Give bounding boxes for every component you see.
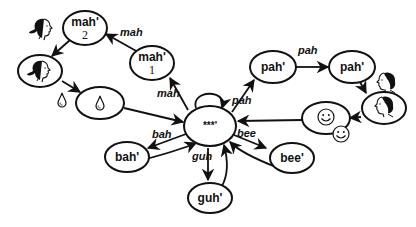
man-face-icon <box>377 72 395 93</box>
edge-label-pah-top: pah <box>297 44 318 56</box>
node-mah1[interactable]: mah' 1 <box>130 46 174 80</box>
node-center[interactable]: ***' <box>184 106 236 146</box>
edge-pah2-to-man <box>360 82 366 93</box>
node-bee[interactable]: bee' <box>270 143 314 173</box>
edge-bee-to-center <box>230 142 276 167</box>
edge-label-bee: bee <box>237 127 256 139</box>
edge-mah2-to-woman <box>52 40 70 56</box>
node-pah1[interactable]: pah' <box>250 51 296 83</box>
node-pah1-label: pah' <box>261 60 285 74</box>
edge-drop-to-center <box>124 108 183 122</box>
node-bah[interactable]: bah' <box>105 142 149 172</box>
edge-label-bah: bah <box>152 128 172 140</box>
node-bah-label: bah' <box>115 150 139 164</box>
edge-label-guh: guh <box>191 150 212 162</box>
edge-label-pah-center: pah <box>231 94 252 106</box>
edge-man-to-smile <box>350 117 361 118</box>
node-mah1-sub: 1 <box>149 63 155 77</box>
node-woman[interactable] <box>18 55 62 87</box>
smiley-face-icon <box>333 126 349 142</box>
node-mah2-label: mah' <box>71 15 99 29</box>
edge-label-mah-bottom: mah <box>157 87 180 99</box>
node-drop[interactable] <box>76 87 124 119</box>
edge-smile-to-center <box>238 120 302 121</box>
node-pah2-label: pah' <box>340 60 364 74</box>
edge-guh-to-center <box>222 145 227 186</box>
state-diagram: mah mah pah pah bah bee guh mah' 2 mah' … <box>0 0 416 227</box>
edge-woman-to-drop <box>62 81 80 92</box>
node-pah2[interactable]: pah' <box>329 51 375 83</box>
water-drop-icon <box>58 93 66 107</box>
node-guh[interactable]: guh' <box>188 183 232 213</box>
node-mah2[interactable]: mah' 2 <box>63 11 107 45</box>
edge-label-mah-top: mah <box>120 26 143 38</box>
node-man[interactable] <box>362 92 406 124</box>
node-bee-label: bee' <box>280 151 304 165</box>
node-mah1-label: mah' <box>138 50 166 64</box>
node-mah2-sub: 2 <box>82 28 88 42</box>
woman-face-icon <box>29 19 52 40</box>
node-center-label: ***' <box>203 120 217 131</box>
smiley-face-icon <box>318 109 334 125</box>
node-guh-label: guh' <box>198 191 223 205</box>
